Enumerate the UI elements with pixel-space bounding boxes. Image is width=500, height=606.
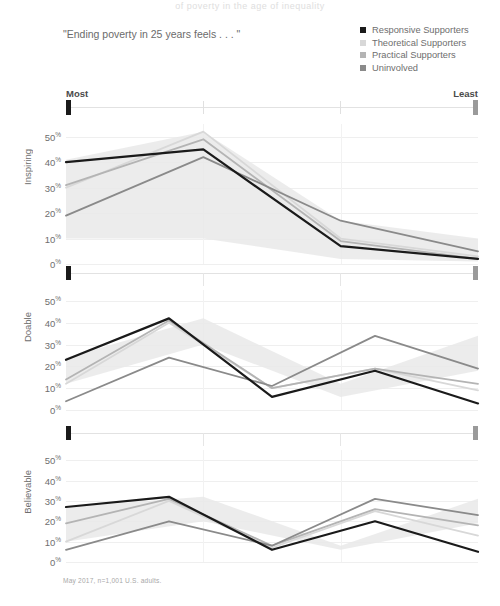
panel-separator-cap-most — [66, 266, 71, 280]
legend-swatch-theoretical-supporters — [360, 40, 366, 46]
most-least-scale: Most Least — [66, 88, 478, 114]
y-axis-tick-label: 50% — [45, 131, 61, 143]
y-axis-tick-label: 40% — [45, 317, 61, 329]
question-label: "Ending poverty in 25 years feels . . . … — [63, 28, 240, 40]
gridline — [66, 410, 478, 411]
y-axis-tick-label: 40% — [45, 156, 61, 168]
legend-item-theoretical-supporters[interactable]: Theoretical Supporters — [360, 37, 492, 50]
legend-item-uninvolved[interactable]: Uninvolved — [360, 62, 492, 75]
legend-item-responsive-supporters[interactable]: Responsive Supporters — [360, 24, 492, 37]
series-canvas-doable — [66, 290, 478, 410]
legend-item-practical-supporters[interactable]: Practical Supporters — [360, 49, 492, 62]
panel-separator-tick — [203, 273, 204, 286]
chart-footnote: May 2017, n=1,001 U.S. adults. — [63, 577, 162, 584]
clipped-page-title: of poverty in the age of inequality — [0, 0, 500, 12]
y-axis-tick-label: 50% — [45, 295, 61, 307]
gridline — [66, 264, 478, 265]
y-axis-tick-label: 30% — [45, 338, 61, 350]
scale-tick-3 — [340, 101, 341, 114]
legend-swatch-practical-supporters — [360, 52, 366, 58]
plot-area-inspiring: 0%10%20%30%40%50% — [66, 124, 478, 264]
panel-separator-tick — [340, 433, 341, 446]
panel-separator-axis — [66, 433, 478, 434]
y-axis-tick-label: 20% — [45, 360, 61, 372]
y-axis-tick-label: 20% — [45, 515, 61, 527]
panel-axis-title-believable: Believable — [22, 470, 33, 514]
scale-cap-least — [473, 100, 478, 115]
y-axis-tick-label: 0% — [50, 556, 61, 568]
y-axis-tick-label: 50% — [45, 454, 61, 466]
series-canvas-believable — [66, 450, 478, 562]
panel-separator-tick — [340, 273, 341, 286]
panel-separator-cap-least — [473, 426, 478, 440]
panel-separator-cap-most — [66, 426, 71, 440]
series-canvas-inspiring — [66, 124, 478, 264]
y-axis-tick-label: 0% — [50, 404, 61, 416]
chart-legend: Responsive Supporters Theoretical Suppor… — [360, 24, 492, 74]
plot-area-doable: 0%10%20%30%40%50% — [66, 290, 478, 410]
legend-label-uninvolved: Uninvolved — [372, 63, 418, 73]
y-axis-tick-label: 0% — [50, 258, 61, 270]
y-axis-tick-label: 30% — [45, 182, 61, 194]
panel-separator-axis — [66, 273, 478, 274]
y-axis-tick-label: 10% — [45, 536, 61, 548]
panel-separator-tick — [203, 433, 204, 446]
scale-axis-line — [66, 107, 478, 108]
legend-swatch-uninvolved — [360, 65, 366, 71]
panel-axis-title-doable: Doable — [22, 312, 33, 342]
plot-area-believable: 0%10%20%30%40%50% — [66, 450, 478, 562]
y-axis-tick-label: 20% — [45, 207, 61, 219]
legend-label-practical-supporters: Practical Supporters — [372, 50, 456, 60]
y-axis-tick-label: 40% — [45, 474, 61, 486]
panel-axis-title-inspiring: Inspiring — [22, 149, 33, 185]
scale-label-least: Least — [453, 88, 478, 99]
y-axis-tick-label: 30% — [45, 495, 61, 507]
gridline — [66, 562, 478, 563]
legend-label-responsive-supporters: Responsive Supporters — [372, 25, 469, 35]
scale-cap-most — [66, 100, 71, 115]
panel-separator-cap-least — [473, 266, 478, 280]
legend-label-theoretical-supporters: Theoretical Supporters — [372, 38, 466, 48]
scale-tick-2 — [203, 101, 204, 114]
y-axis-tick-label: 10% — [45, 232, 61, 244]
scale-label-most: Most — [66, 88, 88, 99]
legend-swatch-responsive-supporters — [360, 27, 366, 33]
y-axis-tick-label: 10% — [45, 382, 61, 394]
